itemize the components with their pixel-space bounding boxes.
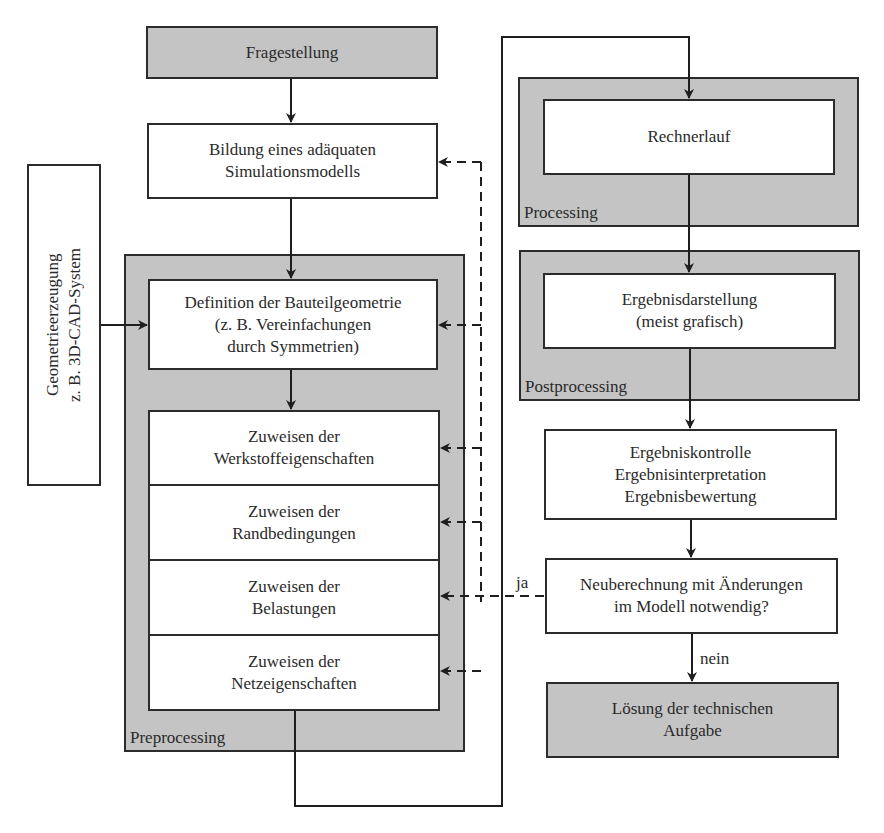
decision-node-label: Neuberechnung mit Änderungen im Modell n…	[580, 574, 803, 618]
decision-no-label: nein	[700, 649, 729, 669]
postprocessing-label: Postprocessing	[525, 377, 627, 397]
end-node-label: Lösung der technischen Aufgabe	[612, 698, 773, 742]
evaluation-node: Ergebniskontrolle Ergebnisinterpretation…	[544, 429, 837, 520]
preprocessing-step-label: Zuweisen der Belastungen	[248, 576, 340, 620]
processing-step-rechnerlauf: Rechnerlauf	[543, 99, 835, 175]
preprocessing-step-label: Definition der Bauteilgeometrie (z. B. V…	[184, 292, 401, 358]
evaluation-node-label: Ergebniskontrolle Ergebnisinterpretation…	[615, 442, 767, 508]
preprocessing-label: Preprocessing	[130, 728, 225, 748]
decision-node: Neuberechnung mit Änderungen im Modell n…	[545, 558, 838, 634]
preprocessing-step-label: Zuweisen der Werkstoffeigenschaften	[214, 426, 375, 470]
decision-yes-label: ja	[516, 573, 528, 593]
geometry-source-label: Geometrieerzeugung z. B. 3D-CAD-System	[42, 248, 86, 402]
model-node: Bildung eines adäquaten Simulationsmodel…	[147, 123, 438, 199]
start-node-label: Fragestellung	[246, 42, 339, 64]
start-node-fragestellung: Fragestellung	[146, 26, 438, 79]
postprocessing-step-label: Ergebnisdarstellung (meist grafisch)	[622, 289, 758, 333]
preprocessing-step-mesh: Zuweisen der Netzeigenschaften	[148, 634, 440, 711]
preprocessing-step-label: Zuweisen der Randbedingungen	[232, 501, 356, 545]
processing-step-label: Rechnerlauf	[647, 126, 730, 148]
postprocessing-step-results: Ergebnisdarstellung (meist grafisch)	[543, 273, 836, 349]
preprocessing-step-boundary: Zuweisen der Randbedingungen	[148, 484, 440, 561]
end-node-solution: Lösung der technischen Aufgabe	[546, 682, 839, 758]
processing-label: Processing	[524, 203, 598, 223]
geometry-source-node: Geometrieerzeugung z. B. 3D-CAD-System	[27, 164, 101, 486]
preprocessing-step-geometry: Definition der Bauteilgeometrie (z. B. V…	[148, 279, 438, 370]
preprocessing-step-loads: Zuweisen der Belastungen	[148, 559, 440, 636]
preprocessing-step-material: Zuweisen der Werkstoffeigenschaften	[148, 410, 440, 486]
preprocessing-step-label: Zuweisen der Netzeigenschaften	[231, 651, 357, 695]
model-node-label: Bildung eines adäquaten Simulationsmodel…	[209, 139, 376, 183]
